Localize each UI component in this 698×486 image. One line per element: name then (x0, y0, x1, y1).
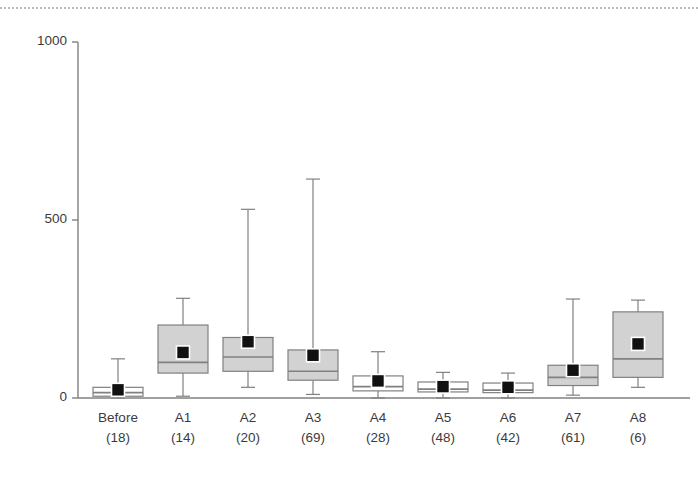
box-plot-figure: 1000 500 0 Before(18)A1(14)A2(20)A3(69)A… (0, 0, 698, 486)
box-plot-a6 (483, 373, 533, 398)
mean-marker (242, 335, 255, 348)
x-category-a8: A8(6) (593, 408, 683, 447)
mean-marker (632, 337, 645, 350)
y-tick-label-1000: 1000 (37, 33, 67, 48)
mean-marker (437, 380, 450, 393)
mean-marker (502, 381, 515, 394)
box-plot-a8 (613, 300, 663, 387)
x-category-name: A8 (593, 408, 683, 428)
mean-marker (567, 364, 580, 377)
y-tick-label-0: 0 (59, 389, 67, 404)
mean-marker (112, 383, 125, 396)
y-tick-label-500: 500 (44, 211, 67, 226)
box-plot-a7 (548, 299, 598, 395)
box-plot-a2 (223, 209, 273, 387)
mean-marker (177, 346, 190, 359)
box-plot-a3 (288, 179, 338, 394)
box-plot-a5 (418, 372, 468, 398)
x-category-count: (6) (593, 428, 683, 448)
box-plot-a4 (353, 352, 403, 398)
mean-marker (372, 374, 385, 387)
box-plot-before (93, 359, 143, 398)
mean-marker (307, 349, 320, 362)
box-plot-a1 (158, 298, 208, 396)
